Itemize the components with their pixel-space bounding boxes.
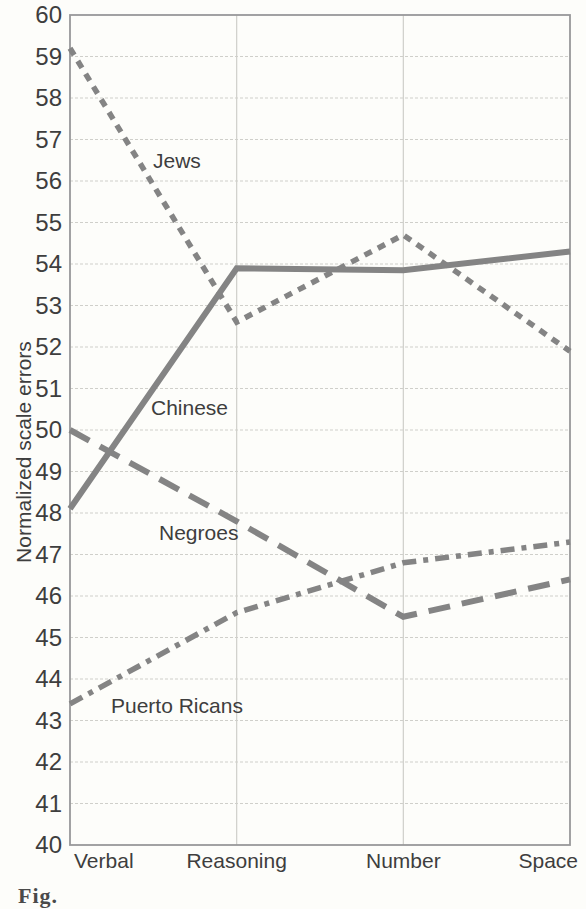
x-tick-label-verbal: Verbal: [74, 849, 134, 873]
series-label-puerto-ricans: Puerto Ricans: [111, 694, 243, 718]
y-tick-label-56: 56: [14, 168, 62, 194]
y-tick-label-60: 60: [14, 2, 62, 28]
y-tick-label-58: 58: [14, 85, 62, 111]
x-tick-label-space: Space: [448, 849, 578, 873]
y-tick-label-40: 40: [14, 832, 62, 858]
y-tick-label-41: 41: [14, 791, 62, 817]
y-axis-title: Normalized scale errors: [12, 252, 36, 652]
series-label-chinese: Chinese: [151, 396, 228, 420]
x-tick-label-reasoning: Reasoning: [167, 849, 307, 873]
series-label-negroes: Negroes: [159, 521, 238, 545]
y-tick-label-42: 42: [14, 749, 62, 775]
y-tick-label-55: 55: [14, 210, 62, 236]
figure-caption-partial: Fig.: [18, 883, 58, 909]
y-tick-label-59: 59: [14, 44, 62, 70]
y-tick-label-43: 43: [14, 708, 62, 734]
y-tick-label-44: 44: [14, 666, 62, 692]
y-tick-label-57: 57: [14, 127, 62, 153]
series-label-jews: Jews: [153, 149, 201, 173]
